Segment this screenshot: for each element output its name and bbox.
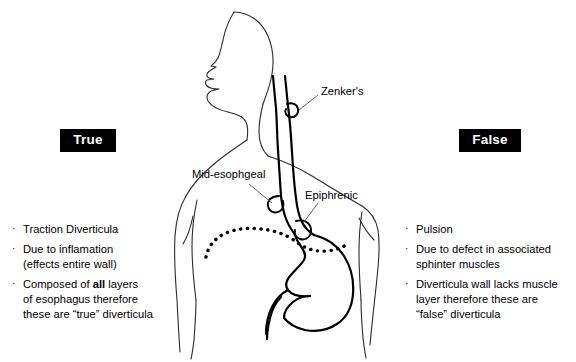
bullet-text: Due to defect in associated sphinter mus…: [416, 242, 576, 272]
label-zenkers: Zenker's: [321, 86, 364, 97]
zenkers-leader-line: [299, 95, 318, 110]
bullet-text: Composed of all layers of esophagus ther…: [23, 277, 180, 322]
zenkers-diverticulum-pouch-path: [285, 103, 298, 117]
left-flank-path: [191, 300, 196, 359]
list-item: · Traction Diverticula: [12, 222, 180, 237]
esophagus-posterior-wall-path: [285, 76, 314, 235]
list-item: · Composed of all layers of esophagus th…: [12, 277, 180, 322]
mid-esophageal-diverticulum-pouch-path: [268, 196, 284, 212]
left-arm-inner-path: [192, 200, 197, 300]
epiphrenic-leader-line: [304, 203, 318, 222]
stomach-pylorus-path: [284, 296, 310, 318]
label-epiphrenic: Epiphrenic: [305, 190, 358, 201]
list-item: · Due to inflamation (effects entire wal…: [12, 242, 180, 272]
diaphragm-dotted-path: [206, 228, 349, 257]
label-mid-esophageal: Mid-esophgeal: [192, 169, 265, 180]
bullet-text: Diverticula wall lacks muscle layer ther…: [416, 277, 576, 322]
false-verdict-badge: False: [459, 129, 521, 152]
bullet-icon: ·: [12, 277, 23, 292]
bullet-text: Due to inflamation (effects entire wall): [23, 242, 180, 272]
bullet-icon: ·: [405, 277, 416, 292]
epiphrenic-diverticulum-pouch-path: [295, 220, 311, 239]
head-profile-path: [206, 12, 248, 140]
false-bullet-list: · Pulsion · Due to defect in associated …: [405, 222, 576, 327]
bullet-icon: ·: [12, 242, 23, 257]
neck-back-path: [259, 104, 268, 156]
duodenum-inner-path: [267, 297, 281, 339]
right-arm-inner-path: [359, 212, 362, 300]
esophagus-anterior-wall-path: [273, 76, 294, 233]
mid-esophageal-leader-line: [249, 184, 272, 203]
bullet-text: Pulsion: [416, 222, 576, 237]
list-item: · Pulsion: [405, 222, 576, 237]
left-armpit-crease-path: [183, 216, 193, 244]
bullet-icon: ·: [12, 222, 23, 237]
right-flank-path: [361, 300, 366, 358]
diagram-root: Zenker's Mid-esophgeal Epiphrenic True ·…: [0, 0, 576, 362]
stomach-greater-curvature-path: [284, 235, 353, 331]
bullet-text: Traction Diverticula: [23, 222, 180, 237]
list-item: · Diverticula wall lacks muscle layer th…: [405, 277, 576, 322]
bullet-icon: ·: [405, 222, 416, 237]
bullet-icon: ·: [405, 242, 416, 257]
list-item: · Due to defect in associated sphinter m…: [405, 242, 576, 272]
right-arm-outer-path: [362, 206, 379, 345]
true-verdict-badge: True: [60, 129, 116, 152]
head-back-path: [234, 12, 273, 104]
stomach-lesser-curvature-path: [286, 233, 310, 296]
right-armpit-crease-path: [359, 218, 374, 240]
true-bullet-list: · Traction Diverticula · Due to inflamat…: [12, 222, 180, 327]
duodenum-outer-path: [266, 290, 288, 334]
